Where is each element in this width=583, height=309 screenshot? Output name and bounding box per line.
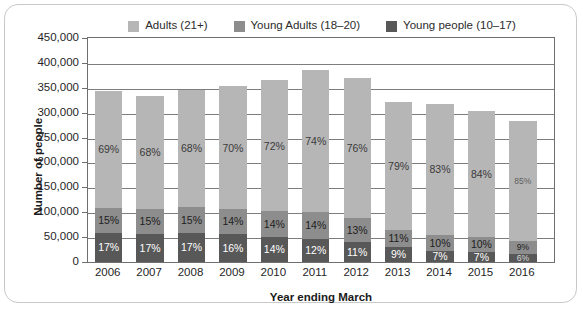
segment-percent-label: 16%	[222, 243, 243, 254]
segment-percent-label: 10%	[471, 239, 492, 250]
segment-young-adults-2015: 10%	[468, 237, 495, 252]
segment-percent-label: 85%	[514, 177, 531, 186]
segment-young-adults-2016: 9%	[509, 241, 536, 254]
segment-percent-label: 70%	[222, 143, 243, 154]
segment-percent-label: 9%	[517, 243, 529, 252]
segment-percent-label: 14%	[305, 220, 326, 231]
segment-adults-2015: 84%	[468, 111, 495, 236]
segment-percent-label: 7%	[474, 252, 489, 263]
legend-swatch-adults	[128, 21, 139, 32]
segment-percent-label: 10%	[430, 238, 451, 249]
segment-percent-label: 15%	[98, 215, 119, 226]
legend-item-young-adults: Young Adults (18–20)	[234, 20, 361, 32]
y-axis-title: Number of people	[19, 65, 39, 235]
legend-label-adults: Adults (21+)	[145, 20, 207, 32]
segment-young-adults-2008: 15%	[178, 207, 205, 233]
x-axis-tick-label-2008: 2008	[177, 267, 204, 279]
x-axis-tick-label-2011: 2011	[301, 267, 328, 279]
x-axis-tick-label-2012: 2012	[343, 267, 370, 279]
segment-adults-2009: 70%	[219, 86, 246, 209]
legend-item-young-people: Young people (10–17)	[386, 20, 516, 32]
segment-percent-label: 14%	[222, 216, 243, 227]
bar-2008: 68%15%17%	[178, 90, 205, 262]
segment-percent-label: 6%	[517, 254, 529, 263]
chart-frame: Adults (21+) Young Adults (18–20) Young …	[4, 4, 577, 303]
segment-young-adults-2007: 15%	[136, 209, 163, 234]
legend-label-young-adults: Young Adults (18–20)	[251, 20, 361, 32]
x-axis-tick-label-2014: 2014	[425, 267, 452, 279]
segment-percent-label: 79%	[388, 161, 409, 172]
x-axis-tick-label-2016: 2016	[508, 267, 535, 279]
segment-young-adults-2009: 14%	[219, 209, 246, 234]
bar-2016: 85%9%6%	[509, 121, 536, 262]
segment-adults-2011: 74%	[302, 70, 329, 212]
y-axis-title-text: Number of people	[33, 87, 45, 247]
segment-adults-2012: 76%	[344, 78, 371, 218]
segment-young-people-2006: 17%	[95, 233, 122, 262]
segment-percent-label: 11%	[388, 233, 408, 244]
segment-adults-2013: 79%	[385, 102, 412, 230]
segment-percent-label: 9%	[391, 249, 406, 260]
bar-2012: 76%13%11%	[344, 78, 371, 262]
x-axis-title: Year ending March	[87, 291, 555, 303]
plot-area: 69%15%17%68%15%17%68%15%17%70%14%16%72%1…	[87, 37, 555, 263]
y-axis-tick-label: 450,000	[17, 32, 79, 44]
legend-swatch-young-people	[386, 21, 397, 32]
segment-percent-label: 11%	[347, 247, 367, 258]
segment-young-people-2011: 12%	[302, 239, 329, 262]
legend-item-adults: Adults (21+)	[128, 20, 207, 32]
segment-adults-2014: 83%	[426, 104, 453, 235]
segment-young-people-2016: 6%	[509, 254, 536, 262]
segment-young-people-2007: 17%	[136, 234, 163, 262]
bar-2013: 79%11%9%	[385, 102, 412, 262]
segment-percent-label: 84%	[471, 169, 492, 180]
segment-adults-2010: 72%	[261, 80, 288, 211]
bar-2010: 72%14%14%	[261, 80, 288, 262]
segment-percent-label: 68%	[181, 143, 202, 154]
bar-2014: 83%10%7%	[426, 104, 453, 262]
segment-percent-label: 74%	[305, 136, 326, 147]
bar-2009: 70%14%16%	[219, 86, 246, 262]
segment-young-people-2010: 14%	[261, 237, 288, 262]
segment-young-people-2012: 11%	[344, 242, 371, 262]
segment-percent-label: 72%	[264, 141, 285, 152]
segment-adults-2016: 85%	[509, 121, 536, 241]
bar-series-group: 69%15%17%68%15%17%68%15%17%70%14%16%72%1…	[88, 38, 554, 262]
segment-young-people-2013: 9%	[385, 247, 412, 262]
segment-adults-2008: 68%	[178, 90, 205, 207]
segment-adults-2006: 69%	[95, 91, 122, 208]
legend-swatch-young-adults	[234, 21, 245, 32]
x-axis-tick-label-2006: 2006	[94, 267, 121, 279]
x-axis-tick-label-2013: 2013	[384, 267, 411, 279]
segment-young-adults-2012: 13%	[344, 218, 371, 242]
segment-percent-label: 76%	[347, 143, 368, 154]
segment-young-people-2009: 16%	[219, 234, 246, 262]
segment-young-adults-2006: 15%	[95, 208, 122, 233]
segment-percent-label: 68%	[140, 147, 161, 158]
bar-2015: 84%10%7%	[468, 111, 495, 262]
bar-2007: 68%15%17%	[136, 96, 163, 262]
bar-2011: 74%14%12%	[302, 70, 329, 262]
segment-percent-label: 15%	[181, 215, 202, 226]
x-axis-tick-label-2010: 2010	[260, 267, 287, 279]
segment-percent-label: 17%	[181, 242, 202, 253]
segment-young-people-2014: 7%	[426, 251, 453, 262]
legend-label-young-people: Young people (10–17)	[403, 20, 516, 32]
segment-adults-2007: 68%	[136, 96, 163, 209]
segment-percent-label: 17%	[98, 242, 119, 253]
segment-percent-label: 83%	[430, 164, 451, 175]
segment-young-people-2015: 7%	[468, 252, 495, 262]
x-axis-tick-label-2007: 2007	[135, 267, 162, 279]
segment-percent-label: 14%	[264, 219, 285, 230]
segment-young-adults-2014: 10%	[426, 235, 453, 251]
segment-young-adults-2011: 14%	[302, 212, 329, 239]
segment-percent-label: 15%	[140, 216, 161, 227]
segment-percent-label: 17%	[140, 243, 161, 254]
segment-percent-label: 7%	[432, 251, 447, 262]
chart-legend: Adults (21+) Young Adults (18–20) Young …	[87, 18, 557, 34]
segment-young-people-2008: 17%	[178, 233, 205, 262]
segment-percent-label: 13%	[347, 225, 368, 236]
x-axis-tick-label-2015: 2015	[467, 267, 494, 279]
segment-young-adults-2013: 11%	[385, 230, 412, 248]
segment-percent-label: 69%	[98, 144, 119, 155]
